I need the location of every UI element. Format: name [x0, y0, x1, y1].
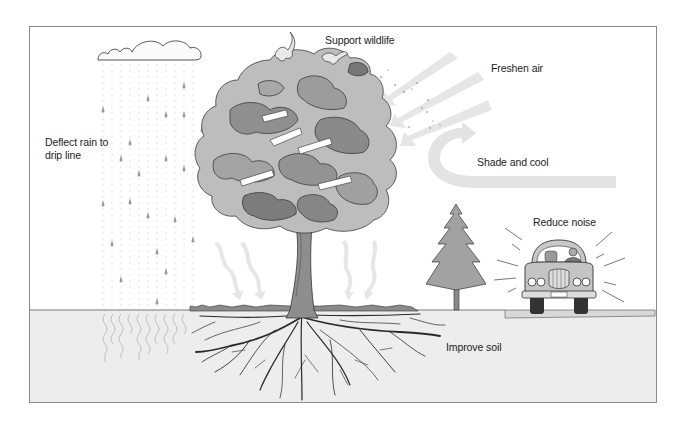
evergreen-tree: [426, 204, 486, 310]
label-shade-cool: Shade and cool: [477, 156, 549, 169]
diagram-canvas: Deflect rain to drip line Support wildli…: [0, 0, 685, 424]
ground: [30, 310, 657, 403]
shade-arrow: [428, 122, 616, 188]
tree-canopy: [195, 48, 396, 233]
tree-trunk: [286, 226, 318, 318]
label-improve-soil: Improve soil: [446, 341, 501, 354]
air-arrows: [380, 52, 492, 146]
car-icon: [494, 228, 625, 314]
illustration: [0, 0, 685, 424]
label-deflect-rain: Deflect rain to drip line: [45, 136, 115, 162]
label-reduce-noise: Reduce noise: [533, 216, 596, 229]
cloud-icon: [98, 41, 201, 60]
label-support-wildlife: Support wildlife: [325, 34, 395, 47]
label-freshen-air: Freshen air: [491, 62, 543, 75]
raindrops: [102, 82, 222, 305]
